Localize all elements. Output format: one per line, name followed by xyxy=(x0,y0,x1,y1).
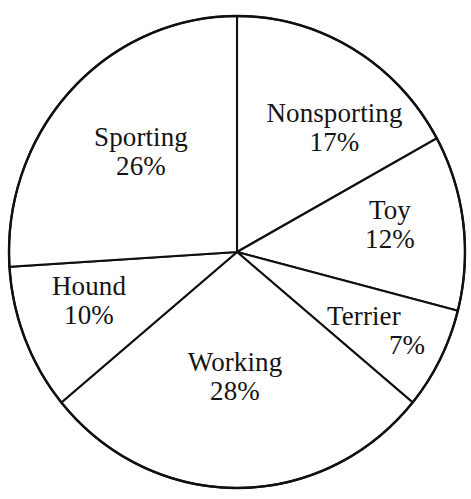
slice-label-working-name: Working xyxy=(155,348,315,377)
pie-chart: Sporting 26% Nonsporting 17% Toy 12% Ter… xyxy=(0,0,471,499)
slice-label-toy-value: 12% xyxy=(338,225,442,254)
slice-label-toy-name: Toy xyxy=(338,196,442,225)
slice-label-hound: Hound 10% xyxy=(24,272,154,330)
slice-label-sporting-name: Sporting xyxy=(56,123,226,152)
slice-label-sporting-value: 26% xyxy=(56,152,226,181)
slice-label-terrier-value: 7% xyxy=(327,331,447,360)
slice-label-working-value: 28% xyxy=(155,377,315,406)
slice-label-sporting: Sporting 26% xyxy=(56,123,226,181)
slice-label-working: Working 28% xyxy=(155,348,315,406)
slice-label-terrier-name: Terrier xyxy=(327,302,447,331)
slice-label-terrier: Terrier 7% xyxy=(327,302,447,360)
slice-label-nonsporting: Nonsporting 17% xyxy=(242,99,427,157)
slice-label-toy: Toy 12% xyxy=(338,196,442,254)
slice-label-nonsporting-value: 17% xyxy=(242,128,427,157)
slice-label-nonsporting-name: Nonsporting xyxy=(242,99,427,128)
slice-label-hound-value: 10% xyxy=(24,301,154,330)
slice-label-hound-name: Hound xyxy=(24,272,154,301)
